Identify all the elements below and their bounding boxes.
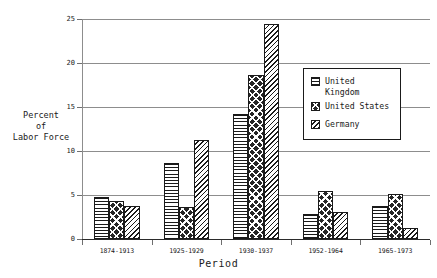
y-tick-label-15: 15: [55, 103, 75, 111]
x-tick-label-4: 1965-1973: [360, 247, 430, 255]
legend-label-united-kingdom-line1: United: [325, 76, 355, 86]
x-axis-label: Period: [0, 258, 437, 269]
bar-united-states-1874-1913: [109, 201, 124, 239]
legend: UnitedKingdom United States Germany: [303, 68, 401, 140]
legend-swatch-germany-icon: [311, 120, 320, 129]
y-tick-label-25: 25: [55, 15, 75, 23]
x-tick-3: [291, 240, 292, 245]
bar-germany-1925-1929: [194, 140, 209, 239]
gridline-20: [82, 63, 430, 64]
bar-germany-1930-1937: [264, 24, 279, 239]
bar-united-kingdom-1874-1913: [94, 197, 109, 239]
x-tick-label-2: 1930-1937: [221, 247, 291, 255]
legend-swatch-united-kingdom-icon: [311, 77, 320, 86]
y-tick-5: [77, 195, 82, 196]
y-axis-label-line-3: Labor Force: [4, 132, 78, 143]
legend-item-germany: Germany: [311, 119, 360, 130]
bar-germany-1952-1964: [333, 212, 348, 239]
legend-item-united-states: United States: [311, 101, 389, 112]
legend-label-united-states: United States: [325, 101, 389, 112]
x-tick-end: [430, 240, 431, 245]
bar-germany-1965-1973: [403, 228, 418, 239]
bar-united-states-1965-1973: [388, 194, 403, 239]
y-axis-label: Percent of Labor Force: [4, 110, 78, 143]
y-axis-label-line-2: of: [4, 121, 78, 132]
legend-swatch-united-states-icon: [311, 102, 320, 111]
y-tick-label-10: 10: [55, 147, 75, 155]
legend-label-germany: Germany: [325, 119, 360, 130]
bar-united-kingdom-1965-1973: [372, 206, 387, 239]
legend-item-united-kingdom: UnitedKingdom: [311, 76, 360, 97]
bar-united-states-1925-1929: [179, 207, 194, 239]
bar-united-kingdom-1952-1964: [303, 214, 318, 239]
y-tick-15: [77, 107, 82, 108]
x-tick-label-0: 1874-1913: [82, 247, 152, 255]
x-tick-label-1: 1925-1929: [152, 247, 222, 255]
bar-chart: Percent of Labor Force 0510152025 1874-1…: [0, 0, 437, 278]
x-tick-0: [82, 240, 83, 245]
x-tick-label-3: 1952-1964: [291, 247, 361, 255]
legend-label-united-kingdom-line2: Kingdom: [325, 87, 360, 97]
x-tick-2: [221, 240, 222, 245]
y-tick-25: [77, 19, 82, 20]
bar-united-states-1930-1937: [248, 75, 263, 239]
y-tick-label-0: 0: [55, 235, 75, 243]
y-tick-label-5: 5: [55, 191, 75, 199]
x-tick-1: [152, 240, 153, 245]
y-axis-label-line-1: Percent: [4, 110, 78, 121]
bar-united-kingdom-1925-1929: [164, 163, 179, 239]
y-tick-10: [77, 151, 82, 152]
y-tick-20: [77, 63, 82, 64]
legend-label-united-kingdom: UnitedKingdom: [325, 76, 360, 97]
bar-germany-1874-1913: [124, 206, 139, 239]
x-tick-4: [360, 240, 361, 245]
gridline-0: [82, 239, 430, 240]
gridline-25: [82, 19, 430, 20]
bar-united-states-1952-1964: [318, 191, 333, 239]
bar-united-kingdom-1930-1937: [233, 114, 248, 239]
y-axis-line: [82, 19, 83, 240]
y-tick-label-20: 20: [55, 59, 75, 67]
